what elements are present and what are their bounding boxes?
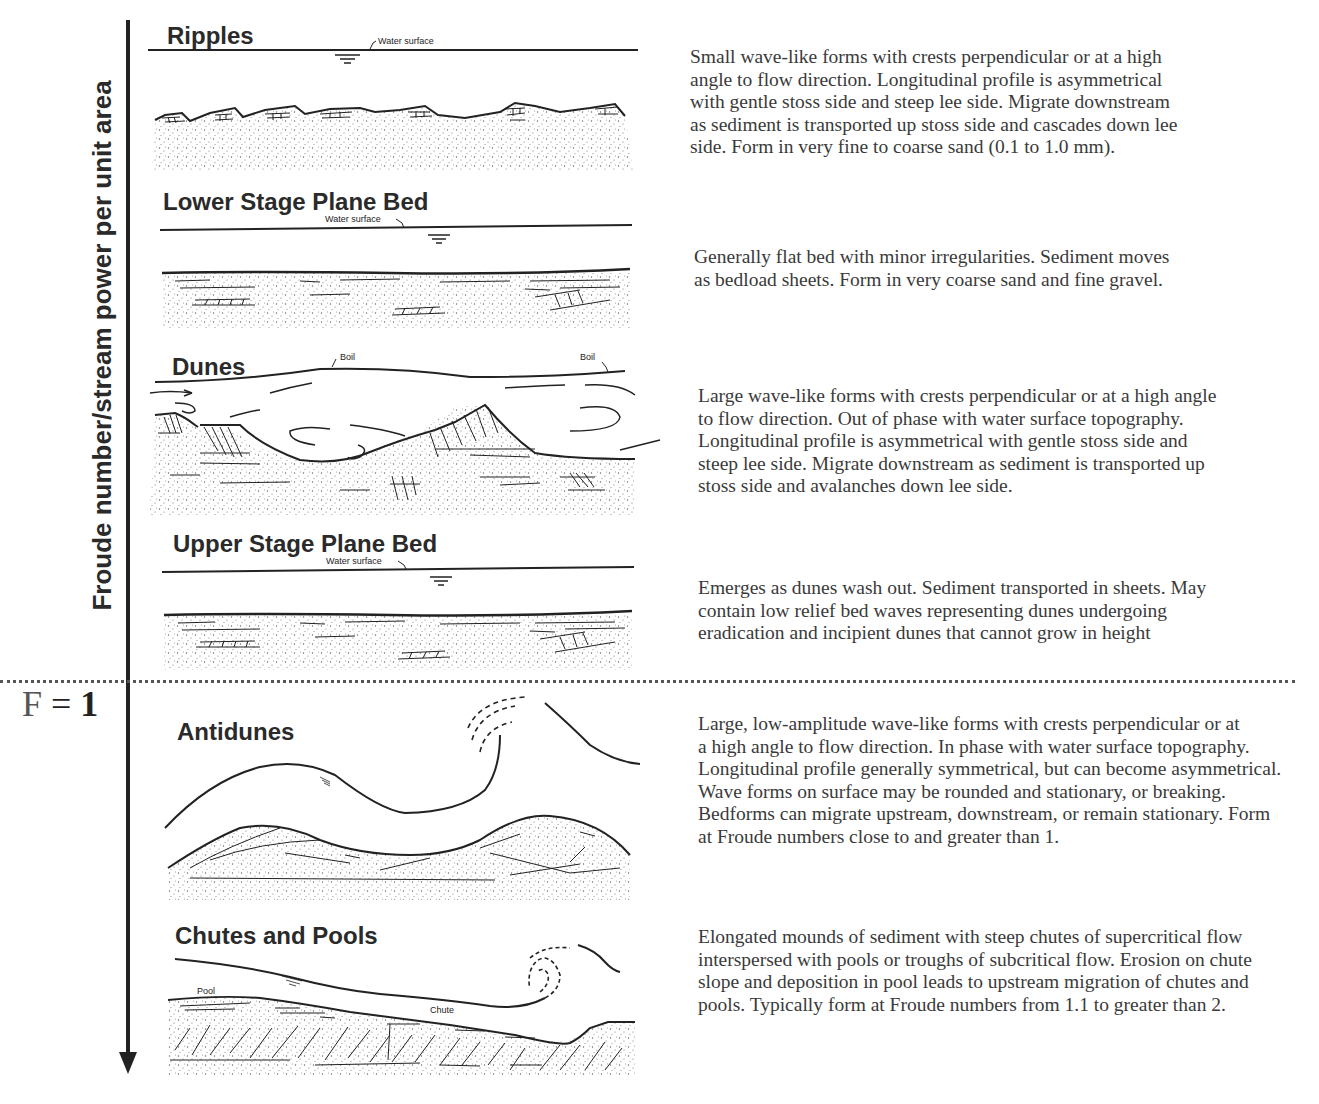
- description-line: Longitudinal profile generally symmetric…: [698, 758, 1281, 781]
- description-line: Small wave-like forms with crests perpen…: [690, 46, 1177, 69]
- description-line: angle to flow direction. Longitudinal pr…: [690, 69, 1177, 92]
- bedform-description-ripples: Small wave-like forms with crests perpen…: [690, 46, 1177, 159]
- bedform-description-chutes-and-pools: Elongated mounds of sediment with steep …: [698, 926, 1252, 1016]
- description-line: Wave forms on surface may be rounded and…: [698, 781, 1281, 804]
- y-axis-label-text: Froude number/stream power per unit area: [87, 80, 118, 610]
- description-line: side. Form in very fine to coarse sand (…: [690, 136, 1177, 159]
- boil-label: Boil: [580, 352, 595, 362]
- froude-value: 1: [80, 684, 98, 724]
- description-line: Bedforms can migrate upstream, downstrea…: [698, 803, 1281, 826]
- chute-label: Chute: [430, 1005, 454, 1015]
- boil-label: Boil: [340, 352, 355, 362]
- dunes-illustration: Boil Boil: [140, 345, 660, 515]
- description-line: Large wave-like forms with crests perpen…: [698, 385, 1216, 408]
- y-axis-line: [126, 20, 130, 1060]
- description-line: to flow direction. Out of phase with wat…: [698, 408, 1216, 431]
- description-line: Large, low-amplitude wave-like forms wit…: [698, 713, 1281, 736]
- description-line: Elongated mounds of sediment with steep …: [698, 926, 1252, 949]
- description-line: Emerges as dunes wash out. Sediment tran…: [698, 577, 1206, 600]
- bedform-description-upper-stage-plane-bed: Emerges as dunes wash out. Sediment tran…: [698, 577, 1206, 645]
- froude-threshold-label: F = 1: [22, 683, 98, 725]
- bedform-description-dunes: Large wave-like forms with crests perpen…: [698, 385, 1216, 498]
- y-axis-label: Froude number/stream power per unit area: [82, 20, 122, 670]
- description-line: slope and deposition in pool leads to up…: [698, 971, 1252, 994]
- description-line: pools. Typically form at Froude numbers …: [698, 994, 1252, 1017]
- description-line: at Froude numbers close to and greater t…: [698, 826, 1281, 849]
- ripples-illustration: Water surface: [140, 20, 640, 170]
- water-surface-label: Water surface: [378, 36, 434, 46]
- description-line: as bedload sheets. Form in very coarse s…: [694, 269, 1169, 292]
- upper-stage-plane-bed-illustration: Water surface: [140, 525, 640, 675]
- equals-sign: =: [51, 684, 71, 724]
- bedform-description-antidunes: Large, low-amplitude wave-like forms wit…: [698, 713, 1281, 848]
- antidunes-illustration: [150, 700, 650, 900]
- froude-threshold-line: [0, 680, 1295, 683]
- description-line: steep lee side. Migrate downstream as se…: [698, 453, 1216, 476]
- description-line: Longitudinal profile is asymmetrical wit…: [698, 430, 1216, 453]
- lower-stage-plane-bed-illustration: Water surface: [140, 185, 640, 330]
- description-line: eradication and incipient dunes that can…: [698, 622, 1206, 645]
- description-line: Generally flat bed with minor irregulari…: [694, 246, 1169, 269]
- description-line: stoss side and avalanches down lee side.: [698, 475, 1216, 498]
- description-line: with gentle stoss side and steep lee sid…: [690, 91, 1177, 114]
- description-line: contain low relief bed waves representin…: [698, 600, 1206, 623]
- froude-symbol: F: [22, 684, 42, 724]
- chutes-and-pools-illustration: Pool Chute: [150, 910, 650, 1080]
- down-arrow-icon: [119, 1052, 137, 1074]
- water-surface-label: Water surface: [326, 556, 382, 566]
- bedform-description-lower-stage-plane-bed: Generally flat bed with minor irregulari…: [694, 246, 1169, 291]
- pool-label: Pool: [197, 986, 215, 996]
- water-surface-label: Water surface: [325, 214, 381, 224]
- description-line: a high angle to flow direction. In phase…: [698, 736, 1281, 759]
- description-line: interspersed with pools or troughs of su…: [698, 949, 1252, 972]
- description-line: as sediment is transported up stoss side…: [690, 114, 1177, 137]
